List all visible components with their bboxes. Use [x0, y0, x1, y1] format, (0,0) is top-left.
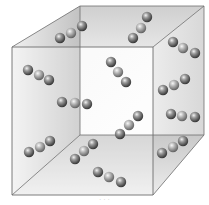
end-atom: [44, 75, 54, 85]
caption: · · ·: [0, 196, 209, 205]
center-atom: [169, 80, 179, 90]
center-atom: [34, 70, 44, 80]
end-atom: [121, 77, 131, 87]
diagram-stage: · · ·: [0, 0, 209, 205]
end-atom: [157, 148, 167, 158]
center-atom: [178, 43, 188, 53]
end-atom: [57, 97, 67, 107]
center-atom: [66, 28, 76, 38]
end-atom: [168, 37, 178, 47]
end-atom: [82, 99, 92, 109]
end-atom: [106, 57, 116, 67]
end-atom: [70, 154, 80, 164]
end-atom: [55, 33, 65, 43]
center-atom: [70, 98, 80, 108]
center-atom: [104, 172, 114, 182]
end-atom: [45, 136, 55, 146]
end-atom: [166, 109, 176, 119]
end-atom: [190, 48, 200, 58]
end-atom: [88, 139, 98, 149]
end-atom: [128, 33, 138, 43]
center-atom: [136, 23, 146, 33]
end-atom: [23, 65, 33, 75]
end-atom: [133, 111, 143, 121]
end-atom: [180, 74, 190, 84]
end-atom: [24, 147, 34, 157]
end-atom: [142, 12, 152, 22]
center-atom: [168, 142, 178, 152]
gas-container-diagram: [0, 0, 209, 205]
center-atom: [177, 111, 187, 121]
center-atom: [79, 146, 89, 156]
center-atom: [113, 67, 123, 77]
end-atom: [77, 21, 87, 31]
end-atom: [93, 167, 103, 177]
cube-faces: [12, 6, 204, 195]
end-atom: [178, 136, 188, 146]
end-atom: [115, 129, 125, 139]
end-atom: [158, 85, 168, 95]
end-atom: [190, 112, 200, 122]
center-atom: [35, 142, 45, 152]
end-atom: [116, 177, 126, 187]
center-atom: [124, 120, 134, 130]
